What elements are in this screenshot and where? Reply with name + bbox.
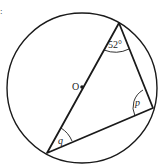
angle-label-p: p — [134, 97, 140, 108]
center-point — [80, 85, 84, 89]
diagram-svg: O 52° p q : — [0, 0, 162, 166]
geometry-diagram: O 52° p q : — [0, 0, 162, 166]
angle-label-q: q — [58, 135, 63, 146]
angle-label-top: 52° — [108, 39, 122, 50]
corner-mark: : — [0, 6, 3, 16]
inscribed-triangle — [47, 23, 153, 153]
center-label: O — [72, 81, 79, 92]
